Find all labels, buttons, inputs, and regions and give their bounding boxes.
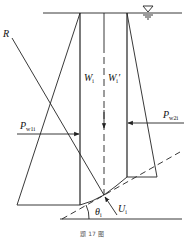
label-R: R	[3, 29, 9, 39]
right-water-pressure-trapezoid	[127, 13, 157, 177]
label-W: Wi	[84, 73, 94, 84]
left-water-pressure-trapezoid	[17, 13, 80, 205]
uplift-U-arrow	[105, 197, 117, 215]
diagram-svg	[0, 0, 184, 238]
water-level-icon	[143, 6, 153, 19]
figure-caption: 题 17 图	[0, 229, 184, 238]
resultant-R-line	[12, 38, 104, 195]
label-Pw2: Pw2i	[163, 110, 178, 121]
label-Pw1: Pw1i	[20, 121, 35, 132]
label-theta: θi	[95, 207, 102, 218]
label-U: Ui	[118, 204, 127, 215]
diagram-canvas: R Wi Wi′ Pw1i Pw2i θi Ui 题 17 图	[0, 0, 184, 238]
slip-surface-curve	[80, 177, 127, 205]
label-W-prime: Wi′	[108, 73, 120, 84]
theta-angle-arc	[86, 205, 89, 219]
